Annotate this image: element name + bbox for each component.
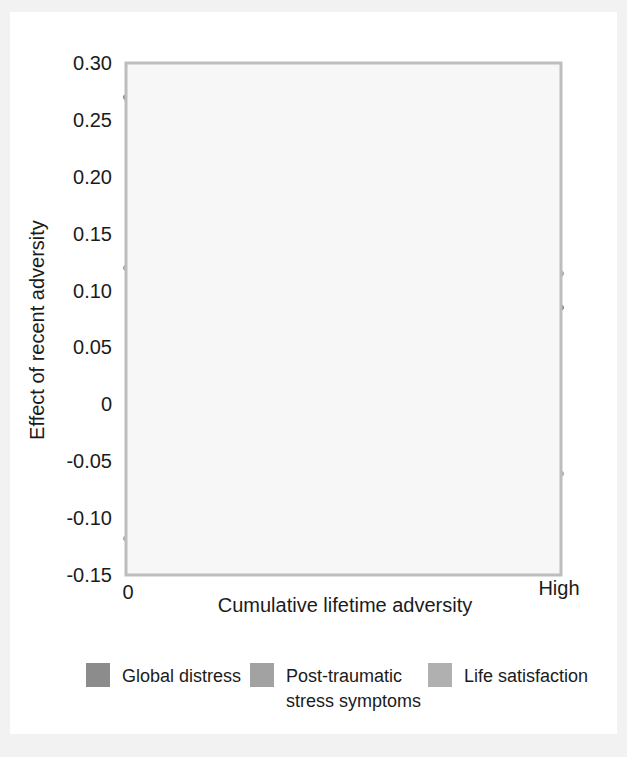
legend-label: Global distress bbox=[122, 666, 241, 686]
legend-label: Post-traumatic bbox=[286, 666, 402, 686]
legend-item: Post-traumaticstress symptoms bbox=[250, 663, 421, 711]
line-chart: 0.300.250.200.150.100.050-0.05-0.10-0.15… bbox=[10, 12, 617, 734]
legend-label: Life satisfaction bbox=[464, 666, 588, 686]
y-tick-label: -0.15 bbox=[66, 564, 112, 586]
plot-frame bbox=[126, 63, 561, 575]
y-axis-title: Effect of recent adversity bbox=[26, 220, 48, 440]
legend-swatch bbox=[428, 663, 452, 687]
x-tick-label-max: High bbox=[538, 577, 579, 599]
y-tick-label: 0.25 bbox=[73, 109, 112, 131]
legend-label-line2: stress symptoms bbox=[286, 691, 421, 711]
legend-swatch bbox=[86, 663, 110, 687]
x-axis-title: Cumulative lifetime adversity bbox=[218, 594, 473, 616]
legend-item: Global distress bbox=[86, 663, 241, 687]
legend-item: Life satisfaction bbox=[428, 663, 588, 687]
figure-card: 0.300.250.200.150.100.050-0.05-0.10-0.15… bbox=[10, 12, 617, 734]
figure-root: 0.300.250.200.150.100.050-0.05-0.10-0.15… bbox=[0, 0, 627, 757]
y-tick-label: 0.20 bbox=[73, 166, 112, 188]
y-tick-label: 0 bbox=[101, 393, 112, 415]
plot-border bbox=[126, 63, 561, 575]
y-tick-label: -0.05 bbox=[66, 450, 112, 472]
y-tick-label: 0.30 bbox=[73, 52, 112, 74]
y-tick-label: 0.15 bbox=[73, 223, 112, 245]
legend-swatch bbox=[250, 663, 274, 687]
x-tick-label-min: 0 bbox=[122, 581, 133, 603]
y-axis-tick-labels: 0.300.250.200.150.100.050-0.05-0.10-0.15 bbox=[66, 52, 112, 586]
y-tick-label: 0.10 bbox=[73, 280, 112, 302]
y-tick-label: -0.10 bbox=[66, 507, 112, 529]
chart-legend: Global distressPost-traumaticstress symp… bbox=[86, 663, 588, 711]
y-tick-label: 0.05 bbox=[73, 336, 112, 358]
